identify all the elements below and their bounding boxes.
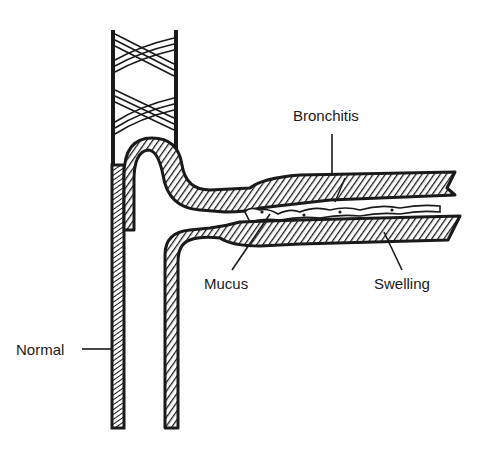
airway-diagram [0,0,481,452]
label-bronchitis: Bronchitis [293,108,359,123]
normal-airway-wall-left [112,165,124,428]
bronchitis-lower-wall [165,216,460,428]
label-normal: Normal [16,342,64,357]
label-mucus: Mucus [204,276,248,291]
label-swelling: Swelling [374,276,430,291]
